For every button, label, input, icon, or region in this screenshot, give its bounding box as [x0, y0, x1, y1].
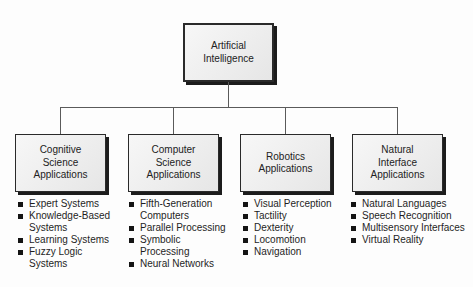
list-item: Learning Systems: [18, 234, 118, 246]
list-robotics-items: Visual Perception Tactility Dexterity Lo…: [243, 198, 343, 258]
node-artificial-intelligence-label: Artificial Intelligence: [203, 40, 254, 65]
list-item: Fuzzy Logic Systems: [18, 246, 118, 270]
node-cognitive-science-applications: Cognitive Science Applications: [15, 134, 106, 192]
list-item: Knowledge-Based Systems: [18, 210, 118, 234]
connector-root-stem: [228, 82, 229, 107]
connector-drop-natural-interface: [397, 107, 398, 134]
list-item: Symbolic Processing: [129, 234, 231, 258]
list-item: Neural Networks: [129, 258, 231, 270]
node-robotics-label: Robotics Applications: [259, 151, 313, 176]
list-item: Speech Recognition: [351, 210, 471, 222]
list-item: Parallel Processing: [129, 222, 231, 234]
list-item: Navigation: [243, 246, 343, 258]
ai-hierarchy-diagram: Artificial Intelligence Cognitive Scienc…: [0, 0, 473, 287]
node-robotics-applications: Robotics Applications: [240, 134, 331, 192]
node-artificial-intelligence: Artificial Intelligence: [183, 23, 274, 82]
list-item: Fifth-Generation Computers: [129, 198, 231, 222]
list-cognitive-science-items: Expert Systems Knowledge-Based Systems L…: [18, 198, 118, 270]
node-natural-interface-label: Natural Interface Applications: [371, 144, 425, 182]
list-item: Expert Systems: [18, 198, 118, 210]
list-item: Locomotion: [243, 234, 343, 246]
connector-horizontal-bar: [60, 107, 398, 108]
list-natural-interface-items: Natural Languages Speech Recognition Mul…: [351, 198, 471, 246]
list-item: Natural Languages: [351, 198, 471, 210]
node-natural-interface-applications: Natural Interface Applications: [352, 134, 443, 192]
node-cognitive-science-label: Cognitive Science Applications: [34, 144, 88, 182]
connector-drop-cognitive: [60, 107, 61, 134]
list-item: Virtual Reality: [351, 234, 471, 246]
list-item: Dexterity: [243, 222, 343, 234]
list-computer-science-items: Fifth-Generation Computers Parallel Proc…: [129, 198, 231, 270]
node-computer-science-label: Computer Science Applications: [147, 144, 201, 182]
list-item: Visual Perception: [243, 198, 343, 210]
list-item: Multisensory Interfaces: [351, 222, 471, 234]
node-computer-science-applications: Computer Science Applications: [128, 134, 219, 192]
connector-drop-computer: [173, 107, 174, 134]
list-item: Tactility: [243, 210, 343, 222]
connector-drop-robotics: [285, 107, 286, 134]
